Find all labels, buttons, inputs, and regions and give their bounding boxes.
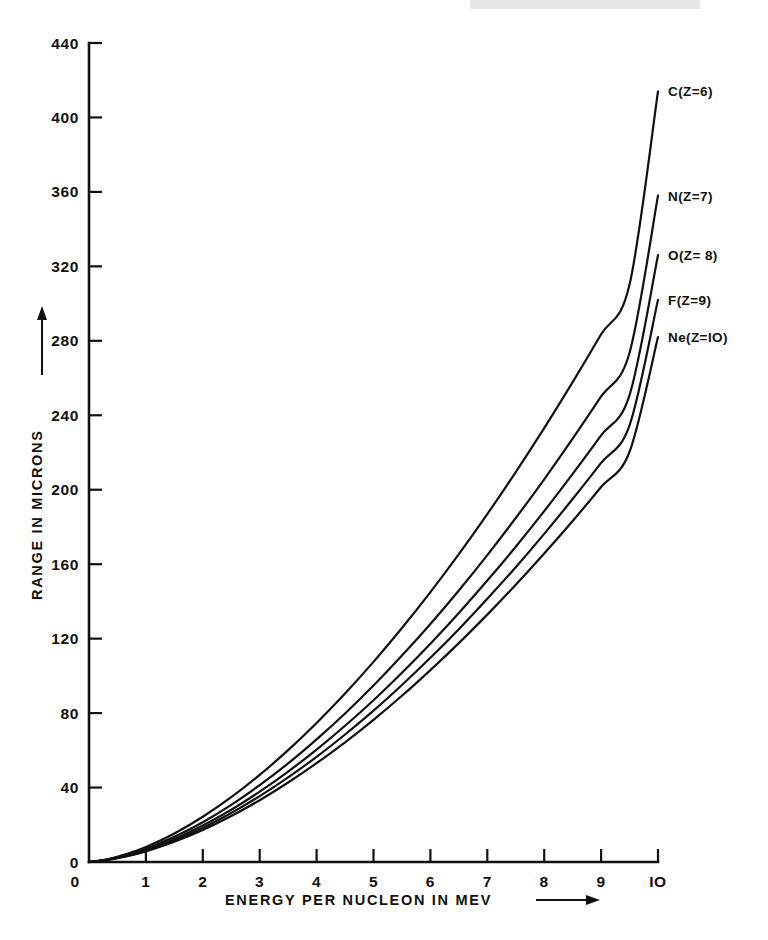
y-tick-label-200: 200 — [51, 481, 79, 498]
y-tick-label-280: 280 — [51, 332, 79, 349]
axes — [89, 43, 658, 862]
y-tick-label-0: 0 — [70, 854, 79, 871]
y-axis-title-group: RANGE IN MICRONS — [29, 306, 47, 600]
series-label-o: O(Z= 8) — [668, 248, 718, 263]
x-tick-label-7: 7 — [483, 873, 492, 890]
scan-artifact — [470, 0, 700, 9]
x-tick-label-1: 1 — [141, 873, 150, 890]
x-tick-label-10: IO — [649, 873, 667, 890]
curve-ne — [89, 337, 658, 862]
series-label-c: C(Z=6) — [668, 84, 713, 99]
curve-c — [89, 91, 658, 862]
x-axis-title-group: ENERGY PER NUCLEON IN MEV — [225, 892, 600, 908]
curve-n — [89, 196, 658, 862]
range-vs-energy-chart: 04080120160200240280320360400440 0123456… — [0, 0, 768, 940]
x-tick-label-9: 9 — [596, 873, 605, 890]
x-tick-label-2: 2 — [198, 873, 207, 890]
y-tick-label-360: 360 — [51, 183, 79, 200]
data-curves — [89, 91, 658, 862]
x-tick-label-6: 6 — [426, 873, 435, 890]
y-tick-label-320: 320 — [51, 258, 79, 275]
y-tick-label-80: 80 — [61, 705, 79, 722]
x-tick-label-5: 5 — [369, 873, 378, 890]
series-labels: C(Z=6)N(Z=7)O(Z= 8)F(Z=9)Ne(Z=IO) — [668, 84, 728, 345]
y-axis-arrow-icon — [37, 306, 47, 375]
x-axis-title: ENERGY PER NUCLEON IN MEV — [225, 892, 492, 908]
y-tick-label-160: 160 — [51, 556, 79, 573]
y-tick-label-40: 40 — [61, 779, 79, 796]
y-tick-label-440: 440 — [51, 35, 79, 52]
x-tick-label-3: 3 — [255, 873, 264, 890]
y-tick-label-240: 240 — [51, 407, 79, 424]
chart-figure: 04080120160200240280320360400440 0123456… — [0, 0, 768, 940]
x-axis-arrow-icon — [536, 895, 600, 905]
x-tick-label-0: 0 — [70, 873, 79, 890]
series-label-ne: Ne(Z=IO) — [668, 330, 728, 345]
curve-o — [89, 255, 658, 862]
y-axis-title: RANGE IN MICRONS — [29, 429, 45, 600]
series-label-f: F(Z=9) — [668, 293, 711, 308]
y-tick-label-400: 400 — [51, 109, 79, 126]
x-tick-label-4: 4 — [312, 873, 321, 890]
y-tick-label-120: 120 — [51, 630, 79, 647]
x-axis-ticks: 0123456789IO — [70, 849, 666, 890]
y-axis-ticks: 04080120160200240280320360400440 — [51, 35, 102, 871]
x-tick-label-8: 8 — [540, 873, 549, 890]
series-label-n: N(Z=7) — [668, 189, 713, 204]
